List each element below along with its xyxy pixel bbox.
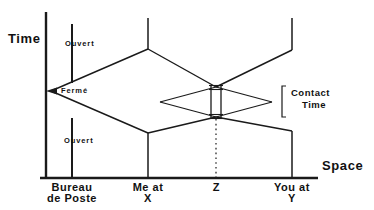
state-label-ouvert-lower: Ouvert (64, 137, 94, 145)
contact-diamond-lower-left-edge (160, 102, 216, 117)
location-label-meeting-point: Z (176, 181, 256, 193)
signal-contact-top-to-you (216, 50, 292, 87)
signal-me-to-closed-upper (51, 49, 148, 91)
contact-time-label-line2: Time (302, 99, 326, 111)
contact-diamond-upper-left-edge (160, 87, 216, 102)
figure-caption (0, 196, 374, 205)
signal-me-to-contact-bottom (148, 117, 216, 133)
signal-closed-to-me-lower (51, 91, 148, 133)
spacetime-diagram-figure: Time Space Ouvert Ouvert Fermé Contact T… (0, 0, 374, 210)
signal-me-to-contact-top (148, 49, 216, 87)
contact-time-label-line1: Contact (291, 87, 330, 99)
contact-time-bracket (282, 86, 286, 117)
contact-diamond-upper-right-edge (216, 87, 272, 102)
closed-vertex-arrowhead (46, 88, 57, 95)
state-label-ferme: Fermé (61, 87, 88, 95)
contact-diamond-lower-right-edge (216, 102, 272, 117)
space-axis-label: Space (322, 159, 363, 174)
time-axis-label: Time (8, 32, 41, 47)
signal-contact-bottom-to-you (216, 117, 292, 131)
state-label-ouvert-upper: Ouvert (65, 40, 95, 48)
